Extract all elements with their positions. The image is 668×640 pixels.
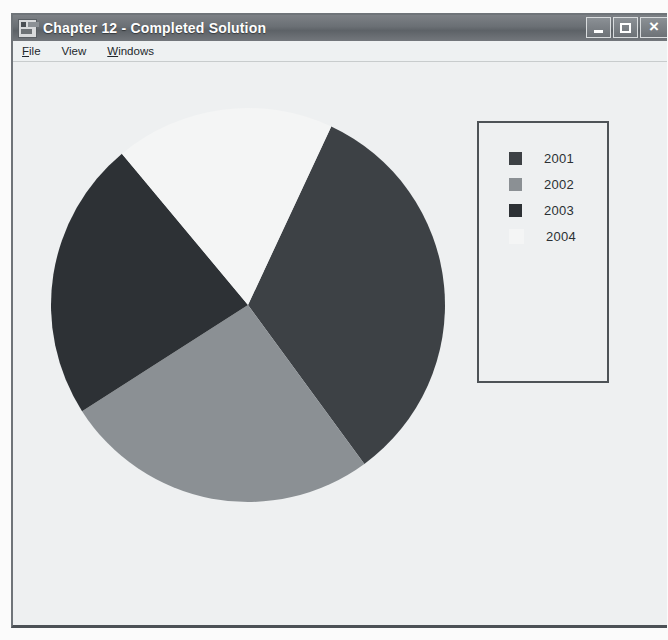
menu-item-windows-accel: W xyxy=(107,45,118,57)
window-controls: × xyxy=(586,17,667,38)
menu-item-view[interactable]: View xyxy=(62,45,87,57)
menu-item-windows-rest: indows xyxy=(118,45,154,57)
window-title: Chapter 12 - Completed Solution xyxy=(43,20,266,36)
legend-item-2004[interactable]: 2004 xyxy=(479,223,607,249)
page-background: Chapter 12 - Completed Solution × File V… xyxy=(0,0,668,640)
minimize-icon xyxy=(594,30,603,33)
legend-label-2004: 2004 xyxy=(546,229,576,244)
legend-swatch-2002 xyxy=(509,178,522,191)
menu-item-windows[interactable]: Windows xyxy=(107,45,154,57)
legend-label-2003: 2003 xyxy=(544,203,574,218)
maximize-icon xyxy=(620,23,631,33)
form-designer-icon xyxy=(18,19,37,38)
legend-swatch-2001 xyxy=(509,152,522,165)
maximize-button[interactable] xyxy=(613,17,638,38)
legend-item-2002[interactable]: 2002 xyxy=(479,171,607,197)
menu-item-file-accel: F xyxy=(22,45,29,57)
client-area: 2001 2002 2003 2004 xyxy=(13,62,667,625)
legend-label-2002: 2002 xyxy=(544,177,574,192)
chart-legend: 2001 2002 2003 2004 xyxy=(477,121,609,383)
menubar: File View Windows xyxy=(13,41,667,62)
close-icon: × xyxy=(649,18,659,35)
legend-item-2001[interactable]: 2001 xyxy=(479,145,607,171)
legend-swatch-2003 xyxy=(509,204,522,217)
legend-label-2001: 2001 xyxy=(544,151,574,166)
window-titlebar[interactable]: Chapter 12 - Completed Solution × xyxy=(13,15,667,41)
minimize-button[interactable] xyxy=(586,17,611,38)
menu-item-view-rest: iew xyxy=(69,45,86,57)
pie-slice-group xyxy=(51,108,445,502)
legend-item-2003[interactable]: 2003 xyxy=(479,197,607,223)
menu-item-view-accel: V xyxy=(62,45,69,57)
close-button[interactable]: × xyxy=(640,17,667,38)
application-window: Chapter 12 - Completed Solution × File V… xyxy=(11,13,667,628)
menu-item-file[interactable]: File xyxy=(22,45,41,57)
menu-item-file-rest: ile xyxy=(29,45,41,57)
legend-swatch-2004 xyxy=(509,229,524,244)
